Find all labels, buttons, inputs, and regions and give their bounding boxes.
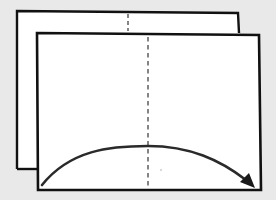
origami-diagram [0, 0, 276, 200]
paper-speck [160, 169, 162, 171]
diagram-canvas [0, 0, 276, 200]
